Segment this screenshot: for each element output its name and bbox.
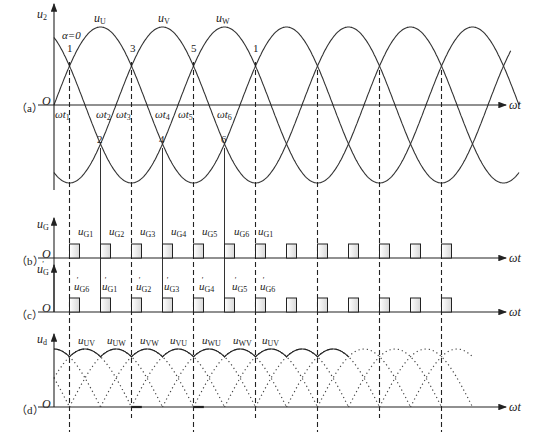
output-voltage-curves [54,349,473,407]
line-voltage-dotted [54,378,70,407]
pulse-label-uG4-prime: uG4' [199,281,216,294]
gate-pulse-b [318,244,328,258]
segment-label-uVW: uVW [140,335,159,348]
time-label-t5: ωt5 [178,109,193,122]
gate-pulse-c [349,298,359,312]
line-voltage-dotted [318,349,411,407]
pulse-label-uG4: uG4 [171,226,186,239]
gate-pulse-c [318,298,328,312]
crossing-number-5: 5 [191,42,197,54]
segment-label-uUV-b: uUV [262,335,279,348]
gate-pulse-b [70,244,80,258]
pulse-label-uG6: uG6 [234,226,249,239]
phase-label-uU: uU [94,12,106,26]
line-voltage-dotted [225,349,318,407]
gate-pulse-b [163,244,173,258]
gate-pulse-c [442,298,452,312]
line-voltage-dotted [256,349,349,407]
time-label-t3: ωt3 [116,109,131,122]
gate-pulse-b [380,244,390,258]
gate-pulse-c [194,298,204,312]
segment-label-uWV: uWV [233,335,252,348]
x-axis-label-c: ωt [509,306,521,318]
gate-pulse-b [442,244,452,258]
pulse-label-uG6-prime: uG6' [74,281,91,294]
gate-pulse-b [225,244,235,258]
x-axis-label-a: ωt [509,99,521,111]
x-axis-label-d: ωt [509,401,521,413]
x-axis-label-b: ωt [509,252,521,264]
line-voltage-dotted [287,349,380,407]
origin-label-d: O [42,398,51,410]
panel-label-a: （a） [16,99,43,115]
gate-pulse-c [287,298,297,312]
gate-pulse-c [380,298,390,312]
line-voltage-dotted [101,349,194,407]
gate-pulse-c [163,298,173,312]
gate-pulse-b [194,244,204,258]
time-label-t2: ωt2 [96,109,111,122]
panel-label-c: （c） [16,306,43,322]
line-voltage-dotted [163,349,256,407]
line-voltage-dotted [54,349,132,407]
pulse-label-uG5: uG5 [202,226,217,239]
pulse-label-uG2: uG2 [109,226,124,239]
pulse-label-uG1-prime: uG1' [102,281,119,294]
gate-pulse-b [132,244,142,258]
pulse-label-uG1: uG1 [78,226,93,239]
phase-label-uW: uW [216,12,230,26]
output-voltage-ud [54,349,349,357]
phase-label-uV: uV [158,12,170,26]
line-voltage-dotted [194,349,287,407]
alpha-label: α=0 [62,30,81,41]
y-axis-label-ud: ud [37,333,47,347]
segment-label-uUW: uUW [107,335,126,348]
gate-pulse-b [411,244,421,258]
origin-label-a: O [42,95,51,107]
gate-pulse-b [256,244,266,258]
gate-pulse-c [70,298,80,312]
gate-pulse-c [225,298,235,312]
segment-label-uUV: uUV [78,335,95,348]
waveform-figure [0,0,537,441]
crossing-number-1b: 1 [253,42,259,54]
gate-pulse-b [349,244,359,258]
gate-pulse-c [132,298,142,312]
origin-label-c: O [42,302,51,314]
y-axis-label-uG-prime: uG' [37,263,51,277]
pulse-label-uG3-prime: uG3' [164,281,181,294]
time-label-t6: ωt6 [217,109,232,122]
line-voltage-dotted [380,349,473,407]
time-label-t1: ωt1 [55,109,70,122]
pulse-label-uG3: uG3 [140,226,155,239]
segment-label-uWU: uWU [202,335,221,348]
y-axis-label-u2: u2 [37,8,47,22]
line-voltage-dotted [54,349,101,407]
gate-pulse-c [256,298,266,312]
gate-pulse-c [101,298,111,312]
panel-label-d: （d） [16,401,44,417]
crossing-number-6: 6 [221,133,227,145]
crossing-number-1: 1 [67,42,73,54]
line-voltage-dotted [132,349,225,407]
gate-pulse-b [101,244,111,258]
gate-pulse-b [287,244,297,258]
y-axis-label-uG: uG [37,218,49,232]
pulse-label-uG2-prime: uG2' [136,281,153,294]
pulse-label-uG5-prime: uG5' [232,281,249,294]
crossing-number-3: 3 [130,42,136,54]
pulse-label-uG1b: uG1 [258,226,273,239]
time-label-t4: ωt4 [155,109,170,122]
line-voltage-dotted [349,349,442,407]
crossing-number-2: 2 [97,133,103,145]
crossing-number-4: 4 [159,133,165,145]
pulse-label-uG6b-prime: uG6' [260,281,277,294]
origin-label-b: O [42,248,51,260]
gate-pulses [70,244,452,312]
segment-label-uVU: uVU [170,335,187,348]
gate-pulse-c [411,298,421,312]
